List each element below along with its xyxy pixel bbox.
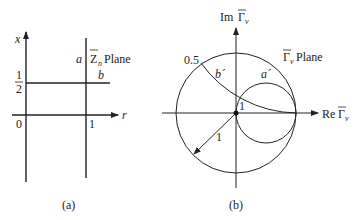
reactance-label: 0.5 [184,53,199,67]
gamma-plane-label: Γ v Plane [283,50,323,66]
zn-subscript: n [98,59,102,68]
arc-a-prime-label: a´ [261,67,272,81]
zn-plane-label: Z n Plane [90,50,131,68]
origin-dot [234,111,239,116]
radius-arrow [194,113,236,154]
zn-symbol: Z [90,52,97,66]
half-numerator: 1 [16,68,22,82]
diagram-canvas: x r 1 2 0 1 a b Z n Plane (a) [0,0,356,220]
re-subscript: v [345,114,349,123]
re-axis-label: Re Γ v [322,107,349,123]
gamma-plane-text: Plane [296,50,323,64]
r-axis-label: r [122,108,127,122]
zn-plane-text: Plane [104,52,131,66]
panel-b-gamma-plane: Im Γ v Re Γ v Γ v Plane 0.5 b´ a´ 1 1 (b… [162,10,349,212]
half-denominator: 2 [16,82,22,96]
im-prefix: Im [220,10,234,24]
gamma-subscript: v [290,57,294,66]
gamma-symbol: Γ [283,50,290,64]
arc-b-prime-label: b´ [215,67,226,81]
r-one-label: 1 [89,117,95,131]
origin-label: 0 [16,117,22,131]
radius-label: 1 [216,130,222,144]
line-b-label: b [98,68,104,82]
im-subscript: v [245,17,249,26]
im-axis-label: Im Γ v [220,10,249,26]
panel-a-zn-plane: x r 1 2 0 1 a b Z n Plane (a) [12,32,131,212]
line-a-label: a [76,52,82,66]
re-prefix: Re [322,107,335,121]
x-axis-label: x [14,32,21,46]
im-symbol: Γ [238,10,245,24]
intersection-label: 1 [239,99,245,113]
re-symbol: Γ [338,107,345,121]
caption-b: (b) [229,198,243,212]
caption-a: (a) [62,198,75,212]
